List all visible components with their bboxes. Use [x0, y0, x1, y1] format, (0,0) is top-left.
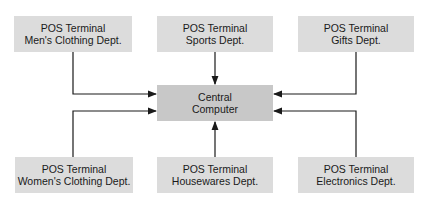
central-computer: Central Computer — [157, 85, 273, 121]
arrow-electronics-to-central — [274, 111, 356, 157]
terminal-label: POS Terminal — [183, 22, 248, 34]
terminal-label: POS Terminal — [183, 163, 248, 175]
terminal-housewares: POS Terminal Housewares Dept. — [157, 157, 273, 193]
arrow-gifts-to-central — [274, 52, 356, 94]
terminal-label: POS Terminal — [42, 163, 107, 175]
central-label-line2: Computer — [192, 103, 238, 115]
terminal-mens-clothing: POS Terminal Men's Clothing Dept. — [14, 16, 132, 52]
terminal-gifts: POS Terminal Gifts Dept. — [298, 16, 414, 52]
terminal-dept: Sports Dept. — [186, 34, 244, 46]
arrow-womens-to-central — [73, 111, 156, 157]
terminal-dept: Men's Clothing Dept. — [24, 34, 121, 46]
terminal-dept: Women's Clothing Dept. — [18, 175, 131, 187]
arrow-mens-to-central — [73, 52, 156, 94]
terminal-womens-clothing: POS Terminal Women's Clothing Dept. — [15, 157, 133, 193]
terminal-sports: POS Terminal Sports Dept. — [157, 16, 273, 52]
terminal-dept: Housewares Dept. — [172, 175, 258, 187]
terminal-label: POS Terminal — [324, 163, 389, 175]
terminal-label: POS Terminal — [324, 22, 389, 34]
terminal-electronics: POS Terminal Electronics Dept. — [298, 157, 414, 193]
terminal-dept: Electronics Dept. — [316, 175, 395, 187]
terminal-label: POS Terminal — [41, 22, 106, 34]
terminal-dept: Gifts Dept. — [331, 34, 381, 46]
central-label-line1: Central — [198, 91, 232, 103]
